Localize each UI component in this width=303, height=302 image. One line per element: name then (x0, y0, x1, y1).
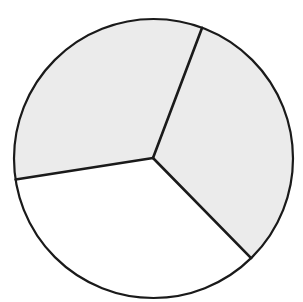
circle-diagram (0, 0, 303, 302)
diagram-stage (0, 0, 303, 302)
